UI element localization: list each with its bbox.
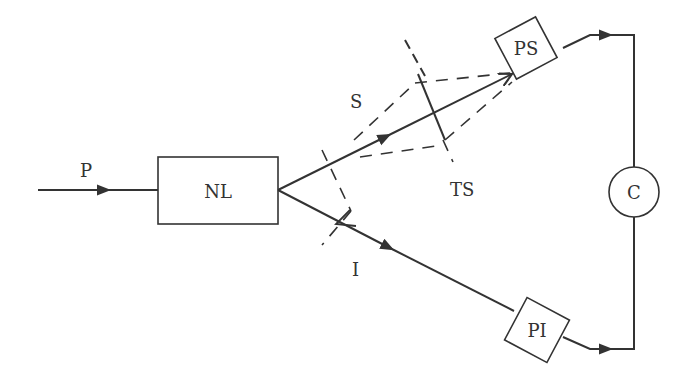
diagram-canvas: P NL S I TS PS (0, 0, 683, 382)
coincidence-counter-label: C (627, 182, 641, 203)
detector-pi: PI (505, 298, 570, 363)
pump-beam: P (38, 160, 158, 190)
idler-label: I (352, 259, 359, 280)
detector-pi-label: PI (527, 320, 546, 341)
coincidence-counter: C (609, 167, 659, 217)
idler-beam: I (278, 190, 514, 311)
detector-ps: PS (495, 17, 557, 79)
nonlinear-crystal-label: NL (204, 181, 232, 202)
test-slit-label: TS (450, 179, 474, 200)
signal-label: S (350, 91, 362, 112)
ps-to-coincidence-wire (563, 35, 634, 167)
pump-label: P (80, 160, 92, 181)
test-slit: TS (405, 40, 474, 200)
pi-to-coincidence-wire (563, 217, 634, 349)
signal-beam: S (278, 74, 512, 226)
nonlinear-crystal-box: NL (158, 157, 278, 224)
aperture-near-crystal (322, 150, 351, 245)
detector-ps-label: PS (514, 38, 538, 59)
